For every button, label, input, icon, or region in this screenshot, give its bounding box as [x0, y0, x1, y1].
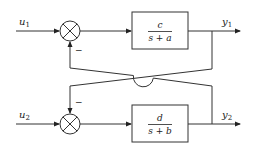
summing-junction-1 [60, 21, 80, 41]
block2-transfer-function: d s + b [148, 113, 172, 136]
transfer-block-2 [132, 105, 188, 142]
top-loop [16, 12, 240, 49]
block-diagram: u1 u2 y1 y2 c s + a d s + b − − [0, 0, 255, 153]
input-label-u2: u2 [19, 109, 30, 122]
block1-numerator: c [157, 20, 162, 30]
minus-sign-sum2: − [75, 97, 83, 107]
block2-numerator: d [157, 113, 163, 123]
transfer-block-1 [132, 12, 188, 49]
minus-sign-sum1: − [75, 45, 83, 55]
block2-denominator: s + b [148, 126, 172, 136]
block1-transfer-function: c s + a [148, 20, 172, 43]
output-label-y1: y1 [221, 16, 232, 29]
input-label-u1: u1 [19, 16, 30, 29]
summing-junction-2 [60, 114, 80, 134]
feedback-y1-to-sum2 [70, 31, 212, 113]
output-label-y2: y2 [221, 109, 232, 122]
block1-denominator: s + a [148, 33, 171, 43]
bottom-loop [16, 105, 240, 142]
